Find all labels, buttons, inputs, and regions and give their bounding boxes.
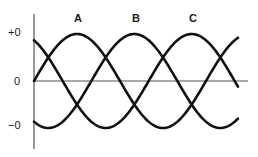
y-tick-top: +0: [8, 26, 21, 38]
series-label-a: A: [74, 12, 82, 24]
series-label-c: C: [189, 12, 197, 24]
series-label-b: B: [132, 12, 140, 24]
y-tick-zero: 0: [14, 75, 20, 87]
y-tick-bottom: −0: [8, 119, 21, 131]
three-phase-chart: +0 0 −0 A B C: [0, 0, 258, 157]
